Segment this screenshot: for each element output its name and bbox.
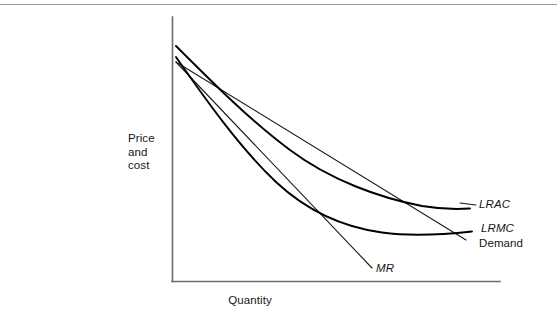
- curve-label-demand: Demand: [479, 237, 523, 251]
- leader-lrac: [460, 203, 476, 205]
- curve-lrac: [176, 46, 470, 209]
- y-axis-label-line-1: Price: [128, 132, 155, 146]
- y-axis-label-line-3: cost: [128, 159, 155, 173]
- x-axis-label: Quantity: [0, 294, 500, 308]
- curve-label-mr: MR: [376, 262, 394, 276]
- curve-label-lrmc: LRMC: [481, 222, 514, 236]
- figure-container: Price and cost Quantity LRAC LRMC Demand…: [0, 0, 557, 323]
- curve-lrmc: [176, 57, 472, 235]
- curve-label-lrac: LRAC: [479, 198, 510, 212]
- y-axis-label-line-2: and: [128, 146, 155, 160]
- plot-area: [0, 0, 557, 323]
- curve-mr: [176, 62, 372, 268]
- y-axis-label: Price and cost: [128, 132, 155, 173]
